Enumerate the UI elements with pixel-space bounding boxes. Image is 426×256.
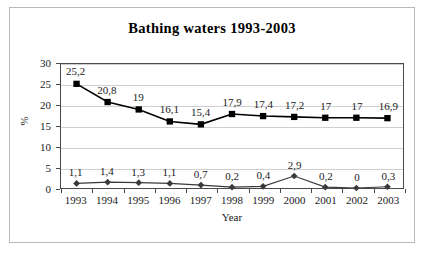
data-label: 20,8 [97, 85, 116, 96]
chart-title: Bathing waters 1993-2003 [10, 20, 414, 37]
series-marker [73, 180, 80, 187]
y-tick-label: 25 [25, 79, 51, 90]
data-label: 1,1 [69, 167, 83, 178]
data-label: 1,3 [131, 167, 145, 178]
data-label: 0,2 [319, 171, 333, 182]
data-label: 17,9 [222, 97, 241, 108]
x-tick-mark [61, 189, 62, 193]
x-tick-mark [405, 189, 406, 193]
data-label: 0 [354, 172, 360, 183]
chart-frame: Bathing waters 1993-2003 % 051015202530 … [9, 7, 415, 243]
series-marker [135, 179, 142, 186]
x-tick-label: 2003 [368, 195, 408, 206]
series-marker [260, 113, 266, 119]
series-marker [384, 115, 390, 121]
series-marker [229, 111, 235, 117]
data-label: 2,9 [288, 160, 302, 171]
x-tick-mark [311, 189, 312, 193]
series-marker [166, 180, 173, 187]
y-tick-mark [56, 105, 60, 106]
series-marker [198, 182, 205, 189]
x-tick-mark [155, 189, 156, 193]
data-label: 17,2 [285, 100, 304, 111]
series-marker [322, 115, 328, 121]
series-marker [291, 173, 298, 180]
x-tick-mark [124, 189, 125, 193]
y-tick-mark [56, 189, 60, 190]
x-tick-mark [374, 189, 375, 193]
data-label: 25,2 [66, 66, 85, 77]
series-marker [136, 106, 142, 112]
data-label: 17 [352, 101, 363, 112]
data-label: 0,7 [194, 169, 208, 180]
series-marker [353, 115, 359, 121]
x-tick-mark [92, 189, 93, 193]
series-marker [104, 179, 111, 186]
x-tick-mark [280, 189, 281, 193]
x-tick-mark [342, 189, 343, 193]
series-marker [322, 184, 329, 191]
series-marker [229, 184, 236, 191]
x-tick-mark [249, 189, 250, 193]
series-marker [353, 185, 360, 192]
series-marker [73, 81, 79, 87]
x-axis-title: Year [60, 211, 404, 223]
y-tick-mark [56, 84, 60, 85]
data-label: 0,2 [225, 171, 239, 182]
y-tick-mark [56, 63, 60, 64]
x-tick-mark [186, 189, 187, 193]
y-tick-label: 0 [25, 184, 51, 195]
y-tick-label: 30 [25, 58, 51, 69]
y-tick-mark [56, 147, 60, 148]
data-label: 17,4 [254, 99, 273, 110]
data-label: 1,4 [100, 166, 114, 177]
data-label: 0,4 [256, 170, 270, 181]
data-label: 0,3 [381, 171, 395, 182]
data-label: 15,4 [191, 107, 210, 118]
x-tick-mark [217, 189, 218, 193]
series-marker [384, 183, 391, 190]
y-tick-label: 5 [25, 163, 51, 174]
series-marker [104, 99, 110, 105]
data-label: 17 [320, 101, 331, 112]
y-tick-label: 20 [25, 100, 51, 111]
y-tick-label: 15 [25, 121, 51, 132]
series-marker [260, 183, 267, 190]
data-label: 16,9 [379, 101, 398, 112]
data-label: 19 [133, 92, 144, 103]
series-marker [291, 114, 297, 120]
series-marker [167, 118, 173, 124]
y-tick-mark [56, 126, 60, 127]
data-label: 1,1 [163, 167, 177, 178]
data-label: 16,1 [160, 104, 179, 115]
y-tick-label: 10 [25, 142, 51, 153]
series-marker [198, 121, 204, 127]
y-tick-mark [56, 168, 60, 169]
